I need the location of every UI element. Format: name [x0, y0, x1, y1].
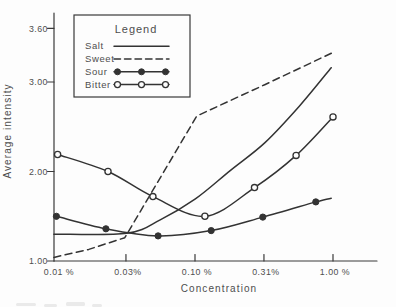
y-tick-label: 1.00: [29, 256, 48, 266]
y-tick-label: 2.00: [29, 167, 48, 177]
sour-marker: [103, 226, 109, 232]
figure-container: 3.603.002.001.000.01 %0.03%0.10 %0.31%1.…: [0, 0, 396, 307]
sour-marker: [53, 213, 59, 219]
artifact-mark: [66, 302, 85, 306]
legend-label-sweet: Sweet: [85, 53, 114, 64]
x-tick-label: 0.10 %: [182, 267, 212, 277]
x-axis-title: Concentration: [181, 283, 258, 294]
y-tick-label: 3.00: [29, 77, 48, 87]
y-tick-label: 3.60: [29, 24, 48, 34]
legend-marker-bitter: [139, 82, 145, 88]
sour-marker: [208, 228, 214, 234]
legend-marker-sour: [139, 69, 145, 75]
bitter-marker: [55, 151, 61, 157]
bitter-marker: [330, 114, 336, 120]
legend-marker-sour: [163, 69, 169, 75]
bitter-marker: [251, 185, 257, 191]
legend-marker-bitter: [115, 82, 121, 88]
y-axis-title: Average intensity: [2, 83, 13, 178]
bitter-marker: [202, 213, 208, 219]
x-tick-label: 0.31%: [252, 267, 279, 277]
x-tick-label: 0.03%: [114, 267, 141, 277]
legend-items: SaltSweetSourBitter: [85, 40, 169, 89]
sour-curve: [56, 198, 331, 236]
artifact-mark: [16, 303, 36, 306]
scan-artifact: [16, 302, 102, 307]
legend: Legend SaltSweetSourBitter: [74, 15, 190, 97]
x-tick-label: 1.00 %: [320, 267, 350, 277]
sour-marker: [155, 233, 161, 239]
sour-marker: [260, 214, 266, 220]
legend-label-sour: Sour: [85, 66, 107, 77]
bitter-marker: [105, 168, 111, 174]
sour-marker: [313, 199, 319, 205]
legend-title: Legend: [115, 23, 158, 35]
bitter-marker: [293, 152, 299, 158]
legend-label-salt: Salt: [85, 40, 104, 51]
legend-marker-bitter: [163, 82, 169, 88]
bitter-marker: [150, 194, 156, 200]
taste-intensity-line-chart: 3.603.002.001.000.01 %0.03%0.10 %0.31%1.…: [0, 0, 396, 307]
legend-label-bitter: Bitter: [85, 79, 111, 90]
x-tick-label: 0.01 %: [44, 267, 74, 277]
bitter-curve: [58, 117, 333, 216]
legend-marker-sour: [115, 69, 121, 75]
plot-layer: 3.603.002.001.000.01 %0.03%0.10 %0.31%1.…: [29, 13, 377, 277]
